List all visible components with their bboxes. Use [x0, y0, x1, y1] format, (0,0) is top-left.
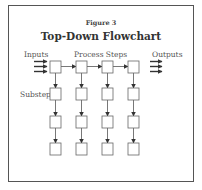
figure-canvas: Figure 3 Top-Down Flowchart Inputs Proce… — [0, 0, 202, 190]
substep-box — [102, 88, 113, 100]
substep-box — [102, 116, 113, 128]
substep-box — [128, 88, 139, 100]
substep-box — [128, 116, 139, 128]
substep-box — [50, 116, 61, 128]
substep-box — [76, 88, 87, 100]
substep-box — [128, 143, 139, 155]
substep-box — [76, 116, 87, 128]
substep-box — [102, 143, 113, 155]
process-step-box — [102, 61, 113, 73]
process-step-box — [50, 61, 61, 73]
substep-box — [50, 88, 61, 100]
process-step-box — [76, 61, 87, 73]
process-step-box — [128, 61, 139, 73]
substep-box — [76, 143, 87, 155]
flowchart-graphic — [0, 0, 202, 190]
substep-box — [50, 143, 61, 155]
